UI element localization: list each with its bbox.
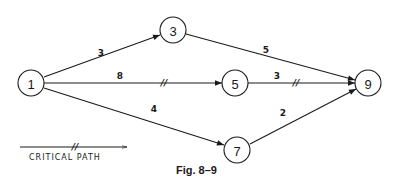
edge-weight-7-9: 2 [280, 108, 286, 118]
legend-critical-marker-icon: // [71, 142, 79, 152]
edge-5-9: 3 // [248, 71, 355, 88]
node-5: 5 [222, 70, 248, 96]
node-7: 7 [224, 137, 250, 163]
node-3: 3 [160, 17, 186, 43]
edge-1-3: 3 [44, 35, 160, 77]
node-label-7: 7 [233, 144, 240, 159]
network-diagram: 3 8 // 4 5 3 // 2 [0, 0, 398, 181]
node-label-3: 3 [169, 24, 176, 39]
node-9: 9 [355, 70, 381, 96]
legend: // CRITICAL PATH [20, 142, 127, 162]
edge-weight-5-9: 3 [274, 71, 280, 81]
edge-weight-3-9: 5 [263, 45, 269, 55]
critical-marker-icon: // [292, 78, 300, 88]
edge-1-5: 8 // [44, 71, 222, 88]
node-label-5: 5 [231, 77, 238, 92]
edge-1-7: 4 [44, 88, 224, 145]
edge-weight-1-3: 3 [98, 48, 104, 58]
edge-weight-1-5: 8 [117, 71, 123, 81]
critical-marker-icon: // [160, 78, 168, 88]
legend-label: CRITICAL PATH [29, 153, 101, 162]
edge-3-9: 5 [186, 34, 355, 80]
edge-weight-1-7: 4 [151, 104, 157, 114]
node-label-1: 1 [27, 77, 34, 92]
edge-7-9: 2 [250, 89, 356, 144]
figure-caption: Fig. 8–9 [176, 164, 217, 176]
node-label-9: 9 [364, 77, 371, 92]
node-1: 1 [18, 70, 44, 96]
edges: 3 8 // 4 5 3 // 2 [44, 34, 356, 145]
